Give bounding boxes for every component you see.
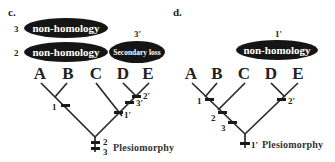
taxon-c: C <box>238 64 250 83</box>
root-mark-1prime: 1' <box>251 140 258 150</box>
mark-2prime: 2' <box>143 91 150 101</box>
mark-2prime: 2' <box>288 96 295 106</box>
panel-c: c. 3 non-homology 2 non-homology 3' Seco… <box>8 6 174 157</box>
mark-1: 1 <box>52 102 57 112</box>
taxon-b: B <box>211 64 222 83</box>
plesiomorphy-label-d: Plesiomorphy <box>262 139 323 150</box>
ellipse-number-2: 2 <box>14 48 19 58</box>
taxon-c: C <box>90 64 102 83</box>
panel-c-label: c. <box>8 6 16 18</box>
root-mark-3: 3 <box>103 147 108 157</box>
taxon-a: A <box>185 64 198 83</box>
panel-d-label: d. <box>173 6 182 18</box>
ellipse-number-3: 3 <box>14 24 19 34</box>
panel-d: d. 1' non-homology A B C D E 1 2 3 2 <box>173 6 323 150</box>
mark-1prime: 1' <box>124 110 131 120</box>
mark-3: 3 <box>221 123 226 133</box>
taxon-d: D <box>117 64 129 83</box>
non-homology-label-2: non-homology <box>32 46 100 58</box>
non-homology-label-1prime: non-homology <box>243 44 311 56</box>
ellipse-number-3prime: 3' <box>134 29 141 39</box>
taxon-e: E <box>142 64 153 83</box>
plesiomorphy-label-c: Plesiomorphy <box>113 142 174 153</box>
ellipse-number-1prime: 1' <box>275 29 282 39</box>
mark-1: 1 <box>197 96 202 106</box>
taxon-d: D <box>265 64 277 83</box>
mark-3prime: 3' <box>136 98 143 108</box>
taxon-b: B <box>62 64 73 83</box>
mark-2: 2 <box>211 113 216 123</box>
taxon-a: A <box>34 64 47 83</box>
secondary-loss-label: Secondary loss <box>113 48 160 57</box>
root-mark-2: 2 <box>103 137 108 147</box>
cladogram-figure: c. 3 non-homology 2 non-homology 3' Seco… <box>0 0 335 162</box>
non-homology-label-3: non-homology <box>32 22 100 34</box>
taxon-e: E <box>292 64 303 83</box>
